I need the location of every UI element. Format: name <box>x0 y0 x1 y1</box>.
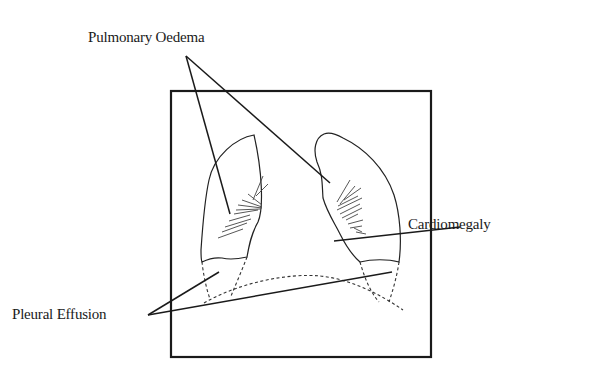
right-lung-outline <box>315 133 400 262</box>
left-lung-hatching <box>218 176 268 238</box>
label-pleural-effusion: Pleural Effusion <box>12 306 106 323</box>
right-effusion-boundary-inner <box>389 262 399 302</box>
diaphragm-dome <box>204 275 403 310</box>
right-lung-hatching <box>337 180 366 234</box>
effusion-leaders <box>148 272 392 315</box>
label-pulmonary-oedema: Pulmonary Oedema <box>88 29 204 46</box>
left-effusion-boundary-inner <box>231 257 247 296</box>
right-effusion-boundary <box>360 262 379 302</box>
xray-frame <box>171 91 431 357</box>
diagram-canvas: Pulmonary Oedema Cardiomegaly Pleural Ef… <box>0 0 592 372</box>
label-cardiomegaly: Cardiomegaly <box>408 216 491 233</box>
left-lung-outline <box>201 135 261 262</box>
